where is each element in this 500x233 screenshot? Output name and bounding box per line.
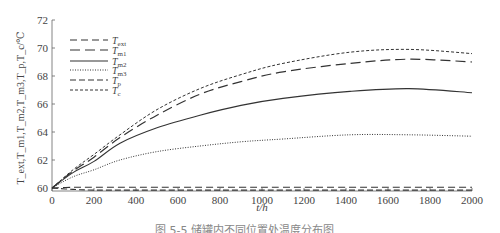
axes: 6062646668707202004006008001000120014001…: [37, 14, 484, 206]
x-tick-label: 600: [170, 194, 187, 206]
figure-caption: 图 5-5 储罐内不同位置处温度分布图: [155, 223, 334, 233]
x-tick-label: 800: [212, 194, 229, 206]
y-tick-label: 68: [37, 70, 49, 82]
y-tick-label: 70: [37, 42, 49, 54]
y-tick-label: 66: [37, 98, 49, 110]
x-tick-label: 2000: [461, 194, 484, 206]
line-chart: 6062646668707202004006008001000120014001…: [0, 0, 500, 233]
x-tick-label: 400: [128, 194, 145, 206]
x-tick-label: 0: [49, 194, 55, 206]
x-tick-label: 1600: [377, 194, 400, 206]
y-axis-label: T_ext,T_m1,T_m2,T_m3,T_p,T_c/℃: [15, 31, 26, 184]
y-tick-label: 64: [37, 126, 49, 138]
y-tick-label: 72: [37, 14, 48, 26]
x-tick-label: 1800: [419, 194, 442, 206]
y-tick-label: 60: [37, 182, 49, 194]
x-tick-label: 200: [86, 194, 103, 206]
series-line-t-m3: [52, 134, 472, 188]
x-tick-label: 1400: [335, 194, 358, 206]
x-axis-label: t/h: [256, 201, 268, 213]
x-tick-label: 1200: [293, 194, 316, 206]
series-line-t-ext: [52, 187, 472, 188]
legend: TextTm1Tm2Tm3TpTc: [70, 35, 127, 98]
y-tick-label: 62: [37, 154, 48, 166]
